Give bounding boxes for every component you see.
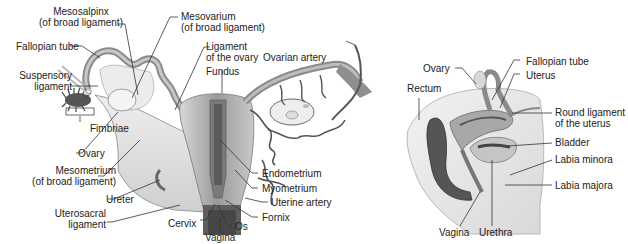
label-myometrium: Myometrium <box>262 183 317 194</box>
label-mesovarium-line1: Mesovarium <box>181 11 265 22</box>
label-mesometrium-line2: (of broad ligament) <box>20 176 116 187</box>
label-urethra: Urethra <box>479 227 512 238</box>
ovary-shape-right <box>474 71 486 89</box>
label-round-ligament-line1: Round ligament <box>555 107 625 118</box>
label-mesosalpinx-line1: Mesosalpinx <box>38 6 124 17</box>
label-vagina-left: Vagina <box>205 232 235 243</box>
label-fallopian-tube-left: Fallopian tube <box>16 41 79 52</box>
label-suspensory-line1: Suspensory <box>10 70 72 81</box>
label-uterus: Uterus <box>526 70 555 81</box>
label-uterine-artery: Uterine artery <box>271 197 332 208</box>
label-uterosacral-line1: Uterosacral <box>40 208 106 219</box>
label-uterosacral-line2: ligament <box>40 219 106 230</box>
label-mesometrium-line1: Mesometrium <box>20 165 116 176</box>
label-mesovarium: Mesovarium (of broad ligament) <box>181 11 265 33</box>
label-rectum: Rectum <box>407 83 441 94</box>
label-round-ligament-line2: of the uterus <box>555 118 625 129</box>
label-mesometrium: Mesometrium (of broad ligament) <box>20 165 116 187</box>
label-ligament-of-ovary: Ligament of the ovary <box>206 41 258 63</box>
label-endometrium: Endometrium <box>262 168 321 179</box>
label-fundus: Fundus <box>206 66 239 77</box>
label-suspensory-line2: ligament <box>10 81 72 92</box>
label-mesovarium-line2: (of broad ligament) <box>181 22 265 33</box>
label-round-ligament: Round ligament of the uterus <box>555 107 625 129</box>
label-ligament-line2: of the ovary <box>206 52 258 63</box>
label-vagina-right: Vagina <box>439 227 469 238</box>
label-uterosacral-ligament: Uterosacral ligament <box>40 208 106 230</box>
label-ovary-left: Ovary <box>78 148 105 159</box>
label-mesosalpinx-line2: (of broad ligament) <box>38 17 124 28</box>
label-labia-majora: Labia majora <box>555 180 613 191</box>
label-fimbriae: Fimbriae <box>90 123 129 134</box>
label-suspensory-ligament: Suspensory ligament <box>10 70 72 92</box>
label-ligament-line1: Ligament <box>206 41 258 52</box>
label-ovarian-artery: Ovarian artery <box>263 52 326 63</box>
label-labia-minora: Labia minora <box>555 154 613 165</box>
label-fornix: Fornix <box>262 212 290 223</box>
label-mesosalpinx: Mesosalpinx (of broad ligament) <box>38 6 124 28</box>
label-bladder: Bladder <box>555 137 589 148</box>
label-fallopian-tube-right: Fallopian tube <box>526 56 589 67</box>
label-os: Os <box>235 221 248 232</box>
label-ovary-right: Ovary <box>423 63 450 74</box>
label-cervix: Cervix <box>168 218 196 229</box>
label-ureter: Ureter <box>106 194 134 205</box>
left-ovary-shape <box>108 89 136 111</box>
